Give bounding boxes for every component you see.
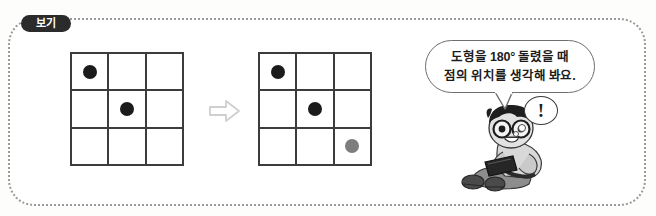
point-dot-gray bbox=[345, 139, 359, 153]
grid-cell bbox=[147, 54, 184, 91]
speech-bubble: 도형을 180° 돌렸을 때 점의 위치를 생각해 봐요. bbox=[425, 40, 595, 93]
grid-cell bbox=[72, 129, 109, 166]
grid-cell bbox=[297, 54, 334, 91]
grid-cell bbox=[109, 129, 146, 166]
grid-cell bbox=[260, 54, 297, 91]
grid-before-rotation bbox=[70, 52, 184, 166]
speech-bubble-line-1: 도형을 180° 돌렸을 때 bbox=[451, 48, 568, 67]
grid-cell bbox=[109, 91, 146, 128]
grid-cell bbox=[72, 54, 109, 91]
rotation-arrow-icon bbox=[208, 98, 242, 124]
grid-cell bbox=[297, 91, 334, 128]
grid-cell bbox=[297, 129, 334, 166]
point-dot-black bbox=[120, 102, 134, 116]
speech-bubble-line-2: 점의 위치를 생각해 봐요. bbox=[444, 67, 575, 86]
exclamation-mark-icon: ! bbox=[538, 100, 544, 121]
thought-bubble-trail-large bbox=[518, 124, 526, 132]
point-dot-black bbox=[308, 102, 322, 116]
grid-cell bbox=[147, 91, 184, 128]
speech-bubble-tail bbox=[494, 92, 516, 110]
grid-cell bbox=[72, 91, 109, 128]
point-dot-black bbox=[83, 65, 97, 79]
grid-cell bbox=[260, 129, 297, 166]
grid-cell bbox=[335, 54, 372, 91]
grid-cell bbox=[260, 91, 297, 128]
grid-cell bbox=[335, 129, 372, 166]
grid-cell bbox=[109, 54, 146, 91]
thought-bubble: ! bbox=[524, 96, 558, 125]
grid-cell bbox=[335, 91, 372, 128]
point-dot-black bbox=[271, 65, 285, 79]
grid-after-rotation bbox=[258, 52, 372, 166]
grid-cell bbox=[147, 129, 184, 166]
thought-bubble-trail-small bbox=[513, 131, 519, 137]
example-label-badge: 보기 bbox=[21, 15, 71, 32]
